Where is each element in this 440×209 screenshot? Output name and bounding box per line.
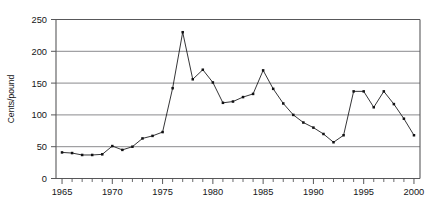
data-point-1985 — [262, 69, 265, 72]
data-point-1980 — [212, 81, 215, 84]
y-tick-label-0: 0 — [42, 174, 47, 184]
price-series-markers — [61, 31, 415, 156]
data-point-1992 — [332, 141, 335, 144]
data-point-1994 — [352, 90, 355, 93]
data-point-1988 — [292, 114, 295, 117]
data-point-2000 — [413, 134, 416, 137]
data-point-1978 — [192, 78, 195, 81]
x-tick-label-1985: 1985 — [253, 187, 274, 197]
x-axis-tick-labels: 19651970197519801985199019952000 — [52, 187, 425, 197]
data-point-1967 — [81, 154, 84, 157]
data-point-1982 — [232, 100, 235, 103]
y-tick-label-50: 50 — [37, 142, 47, 152]
x-tick-label-1990: 1990 — [303, 187, 324, 197]
data-point-1972 — [131, 145, 134, 148]
data-point-1975 — [161, 131, 164, 134]
y-axis-ticks — [51, 20, 56, 179]
data-point-1981 — [222, 102, 225, 105]
data-point-1991 — [322, 133, 325, 136]
x-tick-label-1995: 1995 — [353, 187, 374, 197]
y-axis-tick-labels: 250 200 150 100 50 0 — [31, 15, 47, 184]
data-point-1984 — [252, 93, 255, 96]
data-point-1987 — [282, 102, 285, 105]
data-point-1973 — [141, 137, 144, 140]
y-axis-title: Cents/pound — [6, 74, 16, 123]
y-tick-label-100: 100 — [31, 110, 47, 120]
y-tick-label-150: 150 — [31, 79, 47, 89]
data-point-1996 — [373, 106, 376, 109]
x-tick-label-1965: 1965 — [52, 187, 73, 197]
data-point-1965 — [61, 151, 64, 154]
data-point-1990 — [312, 126, 315, 128]
chart-container: 250 200 150 100 50 0 1965197019751980198… — [0, 0, 440, 209]
data-point-1968 — [91, 154, 94, 157]
data-point-1976 — [171, 87, 174, 90]
x-tick-label-1970: 1970 — [102, 187, 123, 197]
data-point-1995 — [362, 90, 365, 93]
x-tick-label-1975: 1975 — [152, 187, 173, 197]
price-series-line — [62, 32, 414, 155]
x-tick-label-2000: 2000 — [404, 187, 425, 197]
data-point-1986 — [272, 88, 275, 91]
grid-lines — [56, 20, 420, 147]
data-point-1977 — [181, 31, 184, 34]
x-axis-ticks — [62, 179, 414, 185]
data-point-1970 — [111, 145, 114, 148]
data-point-1966 — [71, 152, 74, 155]
data-point-1969 — [101, 153, 104, 156]
y-tick-label-200: 200 — [31, 47, 47, 57]
data-point-1999 — [403, 117, 406, 120]
data-point-1983 — [242, 96, 245, 99]
line-chart: 250 200 150 100 50 0 1965197019751980198… — [0, 0, 440, 209]
data-point-1993 — [342, 134, 345, 137]
data-point-1979 — [202, 68, 205, 71]
data-point-1997 — [383, 90, 386, 93]
data-point-1998 — [393, 103, 396, 106]
x-tick-label-1980: 1980 — [203, 187, 224, 197]
data-point-1989 — [302, 121, 305, 124]
y-tick-label-250: 250 — [31, 15, 47, 25]
data-point-1974 — [151, 135, 154, 138]
data-point-1971 — [121, 149, 124, 152]
